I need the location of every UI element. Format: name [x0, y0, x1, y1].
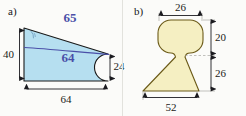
dimension-lower-height-26-text: 26: [215, 67, 227, 79]
dimension-bottom-width-52: 52: [143, 91, 197, 113]
handwriting-65: 65: [64, 10, 78, 25]
dimension-bottom-width-52-text: 52: [166, 101, 177, 113]
panel-a-drawing: 40 64 24 65 64: [0, 0, 123, 116]
panel-b: b) 26: [123, 0, 246, 116]
handwriting-64: 64: [62, 50, 76, 65]
panel-b-drawing: 26 20 26 52: [123, 0, 246, 116]
dimension-lower-height-26: 26: [211, 58, 227, 90]
dimension-upper-height-20: 20: [211, 22, 227, 54]
dimension-upper-height-20-text: 20: [215, 31, 227, 43]
panel-a: a): [0, 0, 123, 116]
dimension-top-width-26: 26: [159, 1, 202, 21]
dimension-bottom-width-64-text: 64: [61, 93, 73, 105]
dimension-left-height-40: 40: [3, 31, 20, 79]
dimension-left-height-40-text: 40: [3, 48, 15, 60]
figure-root: a): [0, 0, 246, 116]
dimension-bottom-width-64: 64: [27, 89, 106, 105]
dimension-top-width-26-text: 26: [175, 1, 187, 13]
